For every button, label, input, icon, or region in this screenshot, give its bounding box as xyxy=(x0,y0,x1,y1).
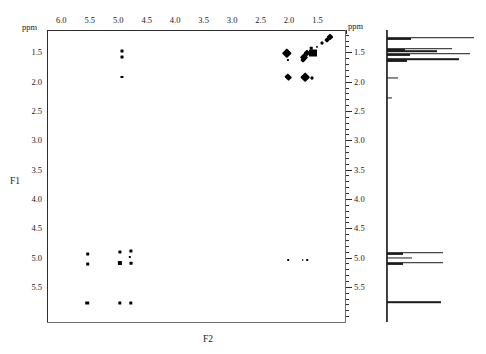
right-tick-minor xyxy=(346,129,349,130)
right-tick-minor xyxy=(346,275,349,276)
right-tick-minor xyxy=(346,281,349,282)
spectrum-peak xyxy=(86,302,90,305)
spectrum-peak xyxy=(306,259,308,261)
spectrum-peak xyxy=(129,262,132,265)
x-tick-label: 5.5 xyxy=(84,16,95,25)
right-tick-minor xyxy=(346,99,349,100)
projection-peak xyxy=(387,77,398,78)
x-tick-label: 2.0 xyxy=(284,16,295,25)
right-tick-minor xyxy=(346,64,349,65)
spectrum-peak xyxy=(129,256,131,258)
right-tick-minor xyxy=(346,117,349,118)
spectrum-peak xyxy=(300,57,306,63)
right-tick-minor xyxy=(346,205,349,206)
right-tick-major xyxy=(346,52,352,53)
x-axis-unit-label-left: ppm xyxy=(22,22,37,32)
right-ppm-scale: 1.52.02.53.03.54.04.55.05.5 xyxy=(346,30,368,322)
projection-peak xyxy=(387,97,392,98)
right-tick-minor xyxy=(346,164,349,165)
spectrum-peak xyxy=(316,45,319,48)
spectrum-peak xyxy=(86,252,90,255)
right-tick-minor xyxy=(346,240,349,241)
right-tick-label: 4.5 xyxy=(354,223,365,233)
projection-peak-foot xyxy=(387,38,411,40)
y-axis-title: F1 xyxy=(10,176,20,186)
right-tick-minor xyxy=(346,58,349,59)
projection-peak-foot xyxy=(387,59,407,61)
spectrum-peak xyxy=(324,37,330,43)
right-tick-minor xyxy=(346,299,349,300)
projection-peak-foot xyxy=(387,263,403,265)
y-tick-label: 2.5 xyxy=(14,106,42,115)
right-tick-minor xyxy=(346,46,349,47)
right-tick-minor xyxy=(346,76,349,77)
right-tick-minor xyxy=(346,181,349,182)
right-tick-minor xyxy=(346,193,349,194)
f1-projection-trace xyxy=(386,30,482,322)
spectrum-plot-frame xyxy=(47,30,346,322)
spectrum-peak xyxy=(288,259,290,261)
spectrum-peak xyxy=(320,41,324,45)
spectrum-peak xyxy=(287,59,289,61)
spectrum-peak xyxy=(86,262,90,265)
spectrum-peak xyxy=(121,49,124,52)
right-tick-minor xyxy=(346,70,349,71)
right-tick-minor xyxy=(346,316,349,317)
spectrum-peak xyxy=(282,48,292,58)
right-tick-label: 4.0 xyxy=(354,194,365,204)
spectrum-peak xyxy=(121,56,124,59)
spectrum-peak xyxy=(302,259,304,261)
right-tick-minor xyxy=(346,293,349,294)
projection-baseline xyxy=(387,30,388,322)
x-tick-label: 5.0 xyxy=(113,16,124,25)
right-tick-minor xyxy=(346,222,349,223)
y-tick-label: 2.0 xyxy=(14,77,42,86)
right-tick-label: 2.0 xyxy=(354,77,365,87)
right-tick-label: 2.5 xyxy=(354,106,365,116)
x-axis-title: F2 xyxy=(203,334,213,344)
y-tick-label: 3.0 xyxy=(14,136,42,145)
y-tick-label: 4.0 xyxy=(14,194,42,203)
right-tick-minor xyxy=(346,246,349,247)
spectrum-peak xyxy=(129,302,132,305)
right-tick-label: 1.5 xyxy=(354,47,365,57)
right-tick-minor xyxy=(346,263,349,264)
x-tick-label: 1.5 xyxy=(312,16,323,25)
right-tick-minor xyxy=(346,187,349,188)
y-tick-label: 1.5 xyxy=(14,48,42,57)
right-tick-minor xyxy=(346,146,349,147)
right-tick-minor xyxy=(346,304,349,305)
spectrum-peak xyxy=(119,251,122,254)
right-tick-minor xyxy=(346,152,349,153)
spectrum-peak-canvas xyxy=(48,31,346,322)
spectrum-peak xyxy=(310,76,314,80)
right-tick-minor xyxy=(346,105,349,106)
right-tick-major xyxy=(346,199,352,200)
x-tick-label: 4.0 xyxy=(170,16,181,25)
right-tick-minor xyxy=(346,88,349,89)
projection-peak-foot xyxy=(387,253,403,255)
right-tick-minor xyxy=(346,269,349,270)
spectrum-peak xyxy=(118,302,121,305)
spectrum-peak xyxy=(120,76,123,78)
right-tick-minor xyxy=(346,310,349,311)
x-tick-label: 6.0 xyxy=(56,16,67,25)
spectrum-peak xyxy=(129,249,132,252)
spectrum-peak xyxy=(301,72,311,82)
projection-peak xyxy=(387,301,441,303)
right-tick-label: 3.5 xyxy=(354,165,365,175)
right-tick-minor xyxy=(346,158,349,159)
x-tick-label: 4.5 xyxy=(141,16,152,25)
right-tick-minor xyxy=(346,252,349,253)
projection-peak xyxy=(387,257,412,258)
y-tick-label: 4.5 xyxy=(14,224,42,233)
right-tick-minor xyxy=(346,93,349,94)
spectrum-peak xyxy=(118,261,122,265)
right-tick-minor xyxy=(346,35,349,36)
right-tick-label: 3.0 xyxy=(354,135,365,145)
plot-bottom-rule xyxy=(47,322,346,323)
right-tick-minor xyxy=(346,175,349,176)
nmr-spectrum-figure: ppm ppm F1 F2 6.05.55.04.54.03.53.02.52.… xyxy=(0,0,486,354)
right-tick-minor xyxy=(346,234,349,235)
x-tick-label: 3.0 xyxy=(227,16,238,25)
